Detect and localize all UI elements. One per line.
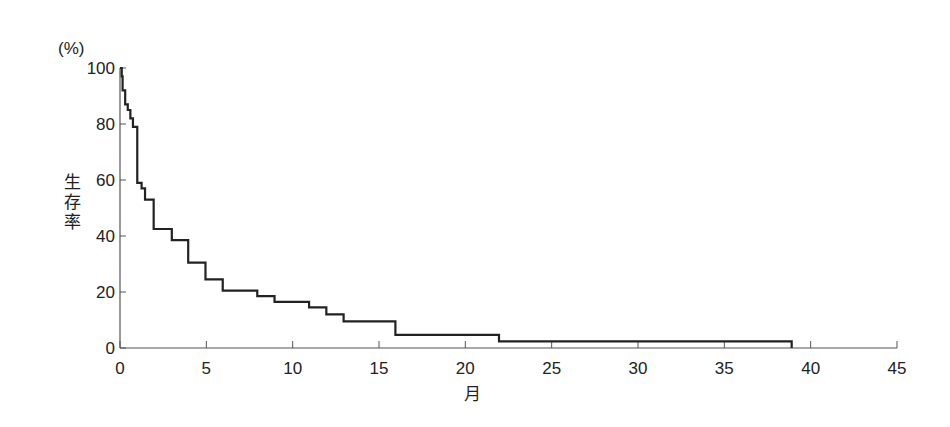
x-tick-label: 10 [283,359,302,378]
y-unit-label: (%) [58,39,84,58]
survival-chart: 020406080100 051015202530354045 (%) 生存率 … [0,0,950,427]
x-tick-label: 0 [115,359,124,378]
x-tick-label: 30 [629,359,648,378]
y-tick-label: 20 [96,283,115,302]
x-axis-title: 月 [464,384,481,404]
x-tick-label: 20 [456,359,475,378]
y-tick-label: 80 [96,115,115,134]
y-axis-title: 生存率 [64,172,81,232]
x-tick-label: 45 [888,359,907,378]
y-axis-title-char: 存 [64,192,81,212]
axes [120,68,897,348]
x-tick-label: 15 [370,359,389,378]
x-tick-label: 35 [715,359,734,378]
y-tick-label: 0 [106,339,115,358]
y-tick-label: 60 [96,171,115,190]
x-tick-label: 25 [542,359,561,378]
x-tick-label: 40 [801,359,820,378]
y-tick-label: 40 [96,227,115,246]
y-tick-label: 100 [87,59,115,78]
x-tick-label: 5 [202,359,211,378]
y-axis-title-char: 生 [64,172,81,192]
x-axis-ticks: 051015202530354045 [115,341,906,378]
survival-curve [120,68,792,348]
y-axis-title-char: 率 [64,212,81,232]
